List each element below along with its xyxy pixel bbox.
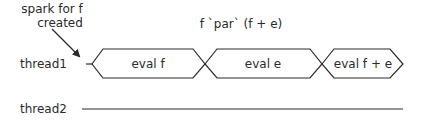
spark-arrow-icon — [52, 29, 79, 56]
thread2-label: thread2 — [20, 102, 67, 116]
segment-eval-e-label: eval e — [245, 57, 281, 71]
thread1-label: thread1 — [20, 57, 67, 71]
segment-eval-f-plus-e-label: eval f + e — [334, 57, 392, 71]
annotation-line1: spark for f — [21, 2, 82, 16]
segment-eval-f-label: eval f — [131, 57, 164, 71]
annotation-line2: created — [37, 16, 83, 30]
expression-label: f `par` (f + e) — [200, 17, 282, 31]
